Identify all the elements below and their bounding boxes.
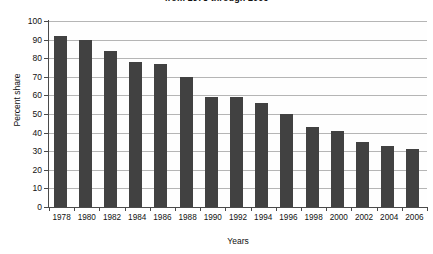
y-tick-label: 90 — [2, 36, 42, 45]
bar — [205, 97, 218, 207]
x-tick-label: 1986 — [149, 213, 175, 223]
x-tick — [251, 207, 252, 211]
bar-slot — [251, 21, 276, 207]
bar — [306, 127, 319, 207]
x-tick-label: 1996 — [275, 213, 301, 223]
x-tick — [427, 207, 428, 211]
x-tick — [301, 207, 302, 211]
x-tick — [377, 207, 378, 211]
bar-slot — [49, 21, 74, 207]
x-tick-label: 2000 — [326, 213, 352, 223]
x-tick — [150, 207, 151, 211]
bar — [356, 142, 369, 207]
x-tick — [125, 207, 126, 211]
x-tick-label: 1994 — [250, 213, 276, 223]
y-tick-label: 100 — [2, 17, 42, 26]
bar-slot — [125, 21, 150, 207]
y-tick-label: 50 — [2, 110, 42, 119]
bar-series — [49, 21, 427, 207]
x-tick-label: 1998 — [301, 213, 327, 223]
x-tick — [402, 207, 403, 211]
bar-slot — [74, 21, 99, 207]
x-tick — [175, 207, 176, 211]
bar-slot — [377, 21, 402, 207]
bar — [104, 51, 117, 207]
bar — [255, 103, 268, 207]
x-tick — [276, 207, 277, 211]
bar — [230, 97, 243, 207]
bar — [79, 40, 92, 207]
bar-slot — [402, 21, 427, 207]
bar — [180, 77, 193, 207]
bar — [331, 131, 344, 207]
y-tick-label: 0 — [2, 203, 42, 212]
x-tick-label: 1988 — [175, 213, 201, 223]
x-tick-label: 1980 — [74, 213, 100, 223]
bar-slot — [276, 21, 301, 207]
chart-title: from 1978 through 2006 — [0, 0, 433, 4]
y-tick-label: 10 — [2, 184, 42, 193]
x-tick-label: 1984 — [124, 213, 150, 223]
bar — [154, 64, 167, 207]
x-tick — [351, 207, 352, 211]
y-tick-label: 70 — [2, 73, 42, 82]
x-tick — [99, 207, 100, 211]
x-tick-label: 1982 — [99, 213, 125, 223]
bar-slot — [225, 21, 250, 207]
x-tick — [326, 207, 327, 211]
y-tick-label: 60 — [2, 91, 42, 100]
x-axis-line — [48, 207, 428, 208]
bar — [54, 36, 67, 207]
bar-slot — [99, 21, 124, 207]
bar-chart: from 1978 through 2006 Percent share 100… — [0, 0, 433, 254]
y-tick-label: 80 — [2, 54, 42, 63]
y-tick-label: 40 — [2, 129, 42, 138]
x-tick-label: 1992 — [225, 213, 251, 223]
x-tick — [200, 207, 201, 211]
bar-slot — [301, 21, 326, 207]
x-tick-label: 2004 — [376, 213, 402, 223]
bar — [381, 146, 394, 207]
y-axis-tick-labels: 1009080706050403020100 — [0, 0, 42, 254]
bar — [406, 149, 419, 207]
x-tick — [49, 207, 50, 211]
bar-slot — [175, 21, 200, 207]
x-tick-label: 1978 — [49, 213, 75, 223]
x-tick-label: 1990 — [200, 213, 226, 223]
x-tick-label: 2002 — [351, 213, 377, 223]
x-tick — [225, 207, 226, 211]
x-tick-label: 2006 — [401, 213, 427, 223]
x-axis-title: Years — [49, 236, 427, 246]
bar-slot — [200, 21, 225, 207]
bar-slot — [351, 21, 376, 207]
y-tick-label: 30 — [2, 147, 42, 156]
y-tick-label: 20 — [2, 166, 42, 175]
bar — [280, 114, 293, 207]
bar — [129, 62, 142, 207]
bar-slot — [326, 21, 351, 207]
x-axis-tick-labels: 1978198019821984198619881990199219941996… — [49, 213, 427, 227]
bar-slot — [150, 21, 175, 207]
x-tick — [74, 207, 75, 211]
